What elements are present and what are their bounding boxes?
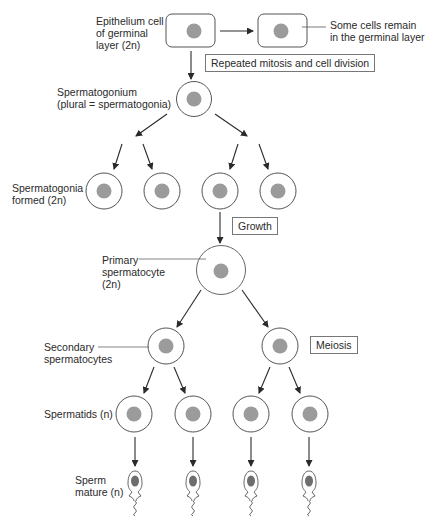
spermatogonia-formed-label: Spermatogonia formed (2n): [12, 182, 83, 206]
arrow-icon: [242, 290, 268, 327]
arrow-icon: [289, 367, 300, 393]
sperm-cell: [244, 471, 258, 516]
spermatogonium-cell: [177, 82, 212, 117]
spermatogenesis-diagram: [0, 0, 437, 520]
sperm-cell: [128, 471, 142, 516]
sperm-cell: [186, 471, 200, 516]
arrow-icon: [230, 144, 238, 169]
meiosis-box: Meiosis: [310, 336, 358, 354]
spermatogonium-label: Spermatogonium (plural = spermatogonia): [57, 86, 171, 110]
arrow-icon: [259, 144, 268, 169]
arrow-icon: [215, 114, 247, 136]
spermatogonia-cell: [202, 173, 238, 209]
spermatogonia-cell: [144, 173, 180, 209]
sperm-label: Sperm mature (n): [75, 474, 123, 498]
spermatid-cell: [233, 396, 269, 432]
arrow-icon: [143, 144, 152, 169]
growth-box: Growth: [232, 217, 278, 235]
arrow-icon: [144, 367, 154, 393]
remaining-germinal-cell: [258, 14, 307, 47]
primary-spermatocyte-cell: [197, 246, 246, 295]
arrow-icon: [136, 114, 167, 136]
secondary-spermatocyte-cell: [148, 328, 184, 364]
arrow-icon: [114, 144, 122, 169]
arrow-icon: [259, 367, 270, 393]
spermatid-cell: [175, 396, 211, 432]
secondary-spermatocyte-cell: [262, 328, 298, 364]
spermatogonia-cell: [260, 173, 296, 209]
spermatid-cell: [292, 396, 328, 432]
spermatogonia-cell: [86, 173, 122, 209]
mitosis-box: Repeated mitosis and cell division: [205, 54, 375, 72]
spermatid-cell: [116, 396, 152, 432]
arrow-icon: [177, 290, 201, 327]
spermatids-label: Spermatids (n): [44, 408, 113, 420]
secondary-spermatocytes-label: Secondary spermatocytes: [44, 341, 112, 365]
epithelium-label: Epithelium cell of germinal layer (2n): [96, 15, 164, 51]
sperm-cell: [302, 471, 316, 516]
epithelium-cell: [166, 14, 215, 47]
arrow-icon: [174, 367, 185, 393]
primary-spermatocyte-label: Primary spermatocyte (2n): [102, 254, 165, 290]
remain-label: Some cells remain in the germinal layer: [330, 19, 425, 43]
